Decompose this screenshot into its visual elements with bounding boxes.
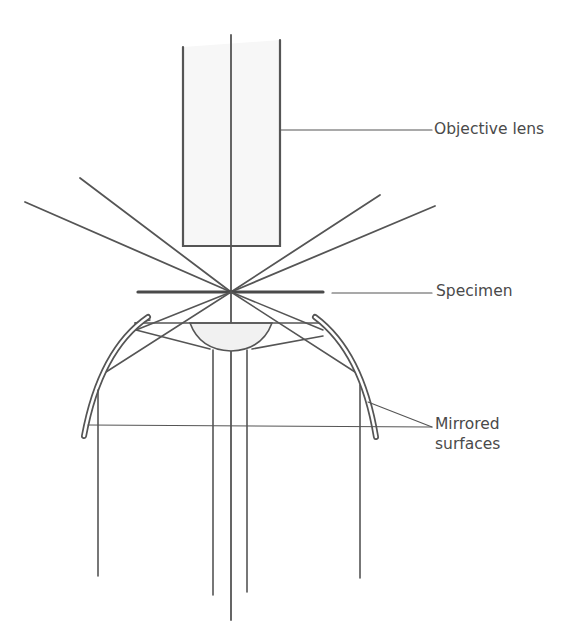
darkfield-condenser-diagram [0, 0, 586, 636]
mirror-diagonal-leader [368, 402, 432, 427]
incident-light-rays [98, 350, 360, 595]
mirrored-surfaces-label-line2: surfaces [435, 434, 500, 454]
mirrored-surfaces-label-line1: Mirrored [435, 414, 500, 434]
mirror-horizontal-leader [88, 425, 432, 427]
mirrored-surface-left [84, 317, 148, 436]
specimen-label: Specimen [436, 281, 513, 301]
mirrored-surfaces-label: Mirrored surfaces [435, 414, 500, 454]
mirrored-surface-right [315, 317, 376, 437]
objective-lens-label: Objective lens [434, 119, 544, 139]
